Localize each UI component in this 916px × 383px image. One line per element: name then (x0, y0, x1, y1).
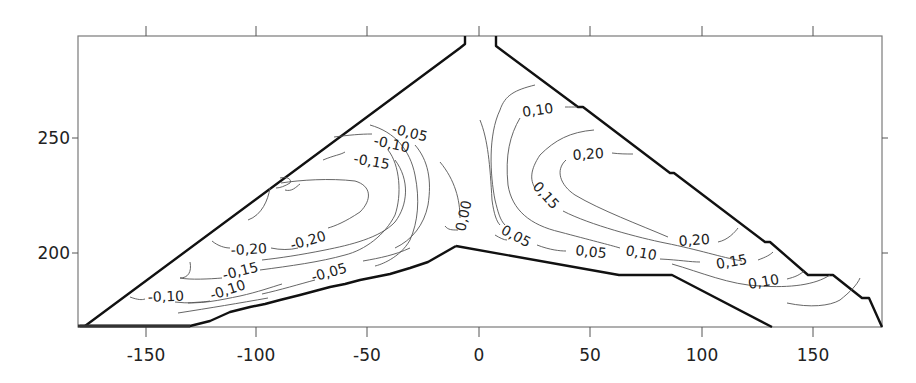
contour-label: 0,10 (521, 100, 554, 120)
contour-0.20 (560, 160, 668, 237)
contour-label: -0,15 (352, 150, 390, 172)
x-tick-label: -150 (127, 345, 166, 365)
contour-neg-0.10-left (334, 134, 372, 137)
contour-neg-0.10 (395, 145, 429, 248)
contour-label: 0,05 (575, 242, 608, 261)
contour-neg-0.15 (323, 152, 345, 160)
contour-neg-0.10-c (130, 297, 145, 300)
contour-label: 0,10 (747, 271, 780, 292)
contour-label: 0,05 (499, 222, 534, 251)
contour-label: 0,15 (530, 178, 563, 212)
contour-chart: -150 -100 -50 0 50 100 150 200 250 (0, 0, 916, 383)
x-tick-label: -100 (237, 345, 276, 365)
contour-label: 0,20 (678, 231, 710, 249)
contour-neg-0.20-c (212, 241, 230, 248)
x-tick-label: 100 (686, 345, 718, 365)
contour-neg-0.15-a (262, 160, 406, 260)
contour-0.10-d (787, 278, 860, 306)
x-tick-label: 0 (474, 345, 485, 365)
contour-0.20-tick (612, 153, 633, 154)
y-tick-label: 200 (38, 243, 70, 263)
contour-labels: -0,05 -0,10 -0,15 -0,20 -0,20 -0,15 -0,1… (148, 100, 781, 305)
contour-0.05-b (537, 245, 566, 251)
contour-0.10-b (660, 259, 700, 262)
contours-negative (130, 125, 429, 313)
contour-label: -0,20 (230, 240, 267, 258)
contour-label: 0,00 (452, 199, 474, 233)
y-axis: 200 250 (38, 128, 888, 263)
contours-positive (440, 85, 860, 306)
x-tick-label: 150 (797, 345, 829, 365)
y-tick-label: 250 (38, 128, 70, 148)
contour-0.15-c (758, 252, 773, 260)
contour-label: -0,10 (148, 288, 185, 305)
contour-label: -0,05 (309, 260, 348, 285)
boundary-left (85, 36, 465, 326)
x-tick-label: -50 (353, 345, 381, 365)
contour-label: 0,10 (624, 242, 657, 263)
contour-label: -0,20 (288, 228, 327, 253)
contour-label: 0,20 (572, 145, 604, 163)
contour-neg-0.15-b (180, 262, 222, 279)
contour-0.20-b (718, 228, 738, 242)
x-axis: -150 -100 -50 0 50 100 150 (127, 26, 830, 365)
contour-neg-0.20 (281, 180, 368, 228)
boundary-bottom-left (80, 246, 456, 326)
contour-label: 0,15 (715, 251, 748, 272)
x-tick-label: 50 (579, 345, 601, 365)
